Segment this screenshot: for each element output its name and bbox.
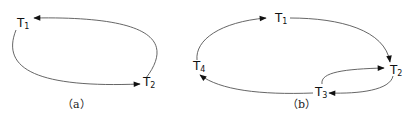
edge-b-t3-to-t2 — [322, 68, 384, 84]
panel-b: T1 T2 T3 T4 （b） — [192, 11, 402, 111]
diagram-canvas: T1 T2 （a） T1 T2 T3 T4 （b） — [0, 0, 410, 122]
node-b-t2: T2 — [389, 63, 402, 78]
edge-a-t1-to-t2 — [13, 30, 140, 85]
panel-a: T1 T2 （a） — [13, 16, 157, 111]
edge-b-t4-to-t1 — [197, 18, 266, 60]
node-b-t4: T4 — [192, 59, 205, 74]
edge-b-t1-to-t2 — [290, 18, 390, 62]
edge-b-t3-to-t4 — [200, 75, 313, 93]
node-a-t2: T2 — [142, 75, 155, 90]
node-a-t1: T1 — [16, 16, 29, 31]
caption-b: （b） — [287, 98, 316, 111]
caption-a: （a） — [62, 98, 91, 111]
node-b-t1: T1 — [274, 11, 287, 26]
edge-a-t2-to-t1 — [34, 18, 157, 78]
edge-b-t2-to-t3 — [329, 76, 393, 93]
